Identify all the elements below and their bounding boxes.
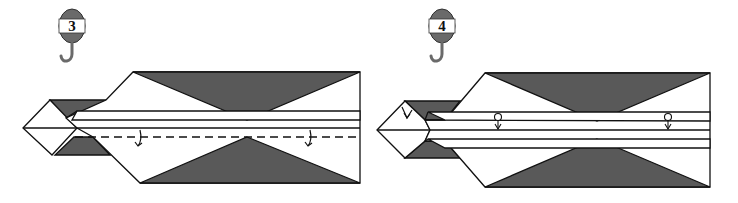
hook-icon <box>61 43 72 61</box>
diagram-canvas: 3 4 <box>0 0 738 203</box>
step-3-badge: 3 <box>59 9 85 61</box>
step-number: 4 <box>438 18 446 34</box>
step-4: 4 <box>377 9 710 187</box>
step-4-badge: 4 <box>429 9 455 61</box>
step-number: 3 <box>68 18 76 34</box>
step-3: 3 <box>23 9 360 183</box>
hook-icon <box>431 43 442 61</box>
